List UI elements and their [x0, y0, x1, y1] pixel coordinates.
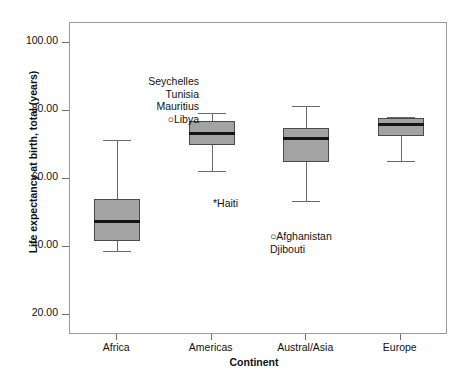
- outlier-label: Seychelles: [148, 75, 199, 88]
- y-axis-tick-mark: [62, 110, 69, 111]
- whisker-cap-upper: [198, 113, 226, 114]
- box-iqr: [283, 128, 329, 163]
- outlier-label: Mauritius: [148, 100, 199, 113]
- y-axis-tick-label: 60.00: [32, 170, 58, 182]
- outlier-marker-icon: ○: [270, 230, 276, 242]
- whisker-cap-upper: [292, 106, 320, 107]
- outlier-label: Djibouti: [270, 243, 332, 256]
- y-axis-tick: 80.00: [0, 110, 69, 111]
- outlier-label: Tunisia: [148, 88, 199, 101]
- x-axis-tick-mark: [211, 334, 212, 340]
- whisker-lower: [212, 145, 213, 171]
- median-line: [189, 132, 235, 135]
- whisker-lower: [117, 241, 118, 251]
- y-axis-tick-mark: [62, 314, 69, 315]
- outlier-marker-icon: ○: [168, 113, 174, 125]
- whisker-cap-lower: [103, 251, 131, 252]
- median-line: [94, 220, 140, 223]
- whisker-cap-lower: [198, 171, 226, 172]
- y-axis-tick-mark: [62, 42, 69, 43]
- y-axis-tick: 100.00: [0, 42, 69, 43]
- y-axis-tick-label: 20.00: [32, 306, 58, 318]
- outlier-annotation: SeychellesTunisiaMauritius○Libya: [148, 75, 199, 125]
- whisker-cap-lower: [387, 161, 415, 162]
- outlier-label: *Haiti: [213, 197, 238, 210]
- plot-area: SeychellesTunisiaMauritius○Libya*Haiti○A…: [69, 22, 447, 334]
- x-axis-tick-label: Europe: [340, 341, 460, 353]
- box-iqr: [378, 118, 424, 136]
- x-axis-title: Continent: [60, 356, 448, 368]
- y-axis-title: Life expectancy at birth, total (years): [22, 0, 44, 332]
- y-axis-tick-mark: [62, 178, 69, 179]
- whisker-upper: [306, 106, 307, 128]
- whisker-lower: [401, 136, 402, 161]
- x-axis-tick-mark: [400, 334, 401, 340]
- outlier-annotation: ○AfghanistanDjibouti: [270, 230, 332, 255]
- outlier-label: ○Libya: [148, 113, 199, 126]
- whisker-lower: [306, 162, 307, 200]
- y-axis-tick: 20.00: [0, 314, 69, 315]
- y-axis-tick-label: 100.00: [26, 34, 58, 46]
- whisker-cap-upper: [103, 140, 131, 141]
- y-axis-tick: 40.00: [0, 246, 69, 247]
- median-line: [378, 123, 424, 126]
- y-axis-tick-mark: [62, 246, 69, 247]
- y-axis-tick-label: 80.00: [32, 102, 58, 114]
- whisker-upper: [117, 140, 118, 200]
- median-line: [283, 137, 329, 140]
- box-plot-chart: Life expectancy at birth, total (years) …: [0, 0, 464, 380]
- y-axis-tick-label: 40.00: [32, 238, 58, 250]
- outlier-label: ○Afghanistan: [270, 230, 332, 243]
- outlier-annotation: *Haiti: [213, 197, 238, 210]
- extreme-outlier-marker-icon: *: [213, 197, 217, 209]
- y-axis-tick: 60.00: [0, 178, 69, 179]
- whisker-cap-lower: [292, 201, 320, 202]
- x-axis-tick-mark: [305, 334, 306, 340]
- whisker-upper: [212, 113, 213, 121]
- x-axis-tick-mark: [116, 334, 117, 340]
